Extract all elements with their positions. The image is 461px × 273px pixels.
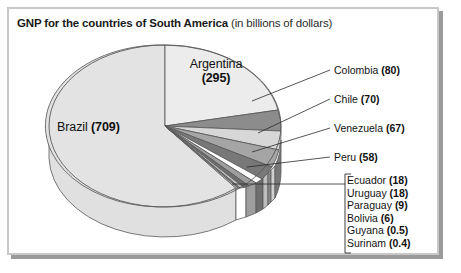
callout-label-colombia: Colombia (80) xyxy=(334,64,400,76)
grouped-item-uruguay-name: Uruguay xyxy=(347,187,390,199)
callout-label-peru: Peru (58) xyxy=(334,151,378,163)
callout-label-colombia-name: Colombia xyxy=(334,64,381,76)
grouped-item-surinam-name: Surinam xyxy=(347,237,389,249)
callout-label-chile-name: Chile xyxy=(334,93,361,105)
side-wall-bolivia xyxy=(263,173,268,209)
slice-label-brazil-name: Brazil xyxy=(57,120,91,134)
slice-label-brazil: Brazil (709) xyxy=(57,120,120,134)
grouped-item-paraguay: Paraguay (9) xyxy=(347,199,411,212)
grouped-callout-list: Ecuador (18) Uruguay (18) Paraguay (9) B… xyxy=(347,174,411,250)
callout-label-peru-value: (58) xyxy=(359,151,378,163)
slice-label-argentina-name: Argentina xyxy=(190,57,243,71)
callout-label-colombia-value: (80) xyxy=(381,64,400,76)
slice-label-argentina: Argentina(295) xyxy=(164,57,268,85)
slice-label-argentina-value: (295) xyxy=(164,71,268,85)
side-wall-ecuador xyxy=(236,185,246,220)
grouped-item-bolivia-value: (6) xyxy=(381,212,394,224)
grouped-item-uruguay-value: (18) xyxy=(390,187,409,199)
side-wall-guyana xyxy=(268,170,271,205)
callout-label-chile: Chile (70) xyxy=(334,93,380,105)
callout-label-peru-name: Peru xyxy=(334,151,359,163)
grouped-item-bolivia-name: Bolivia xyxy=(347,212,381,224)
grouped-item-uruguay: Uruguay (18) xyxy=(347,187,411,200)
callout-label-venezuela-value: (67) xyxy=(386,122,405,134)
callout-label-venezuela-name: Venezuela xyxy=(334,122,386,134)
slice-label-brazil-value: (709) xyxy=(91,120,120,134)
grouped-item-paraguay-value: (9) xyxy=(395,199,408,211)
callout-label-venezuela: Venezuela (67) xyxy=(334,122,405,134)
grouped-item-surinam-value: (0.4) xyxy=(389,237,411,249)
grouped-item-ecuador-name: Ecuador xyxy=(347,174,389,186)
chart-canvas: GNP for the countries of South America (… xyxy=(0,0,461,273)
callout-label-chile-value: (70) xyxy=(361,93,380,105)
grouped-item-guyana-value: (0.5) xyxy=(387,224,409,236)
grouped-item-guyana-name: Guyana xyxy=(347,224,387,236)
grouped-item-surinam: Surinam (0.4) xyxy=(347,237,411,250)
grouped-item-ecuador: Ecuador (18) xyxy=(347,174,411,187)
grouped-item-paraguay-name: Paraguay xyxy=(347,199,395,211)
grouped-item-ecuador-value: (18) xyxy=(389,174,408,186)
grouped-item-guyana: Guyana (0.5) xyxy=(347,224,411,237)
grouped-item-bolivia: Bolivia (6) xyxy=(347,212,411,225)
